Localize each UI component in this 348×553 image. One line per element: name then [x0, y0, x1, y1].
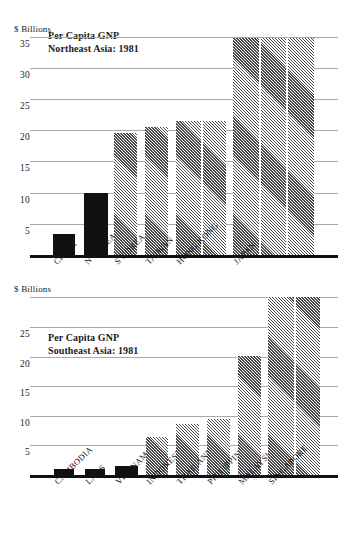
plot-area-southeast: $ Billions Per Capita GNP Southeast Asia… [0, 300, 348, 553]
plot-area-northeast: $ Billions Per Capita GNP Northeast Asia… [0, 0, 348, 288]
y-axis-units-label-southeast: $ Billions [14, 284, 51, 294]
y-tick-label-20: 20 [10, 359, 30, 369]
y-tick-label-15: 15 [10, 163, 30, 173]
bar-taiwan [145, 127, 168, 255]
bar-japan [233, 38, 314, 255]
chart-subtitle-northeast: Northeast Asia: 1981 [48, 43, 139, 56]
chart-southeast-asia: $ Billions Per Capita GNP Southeast Asia… [0, 300, 348, 553]
gridline-35 [30, 37, 338, 38]
y-tick-label-5: 5 [10, 226, 30, 236]
y-tick-label-10: 10 [10, 418, 30, 428]
y-tick-label-15: 15 [10, 388, 30, 398]
y-tick-label-30: 30 [10, 70, 30, 80]
y-axis-units-label-northeast: $ Billions [14, 24, 51, 34]
chart-northeast-asia: $ Billions Per Capita GNP Northeast Asia… [0, 0, 348, 288]
y-tick-label-5: 5 [10, 447, 30, 457]
y-tick-label-25: 25 [10, 101, 30, 111]
y-tick-label-25: 25 [10, 329, 30, 339]
chart-subtitle-southeast: Southeast Asia: 1981 [48, 345, 138, 358]
y-tick-label-35: 35 [10, 39, 30, 49]
y-tick-label-20: 20 [10, 132, 30, 142]
chart-title-southeast: Per Capita GNP [48, 332, 119, 345]
y-tick-label-10: 10 [10, 195, 30, 205]
bar-segment-gap [286, 38, 288, 255]
bar-segment-gap [259, 38, 261, 255]
